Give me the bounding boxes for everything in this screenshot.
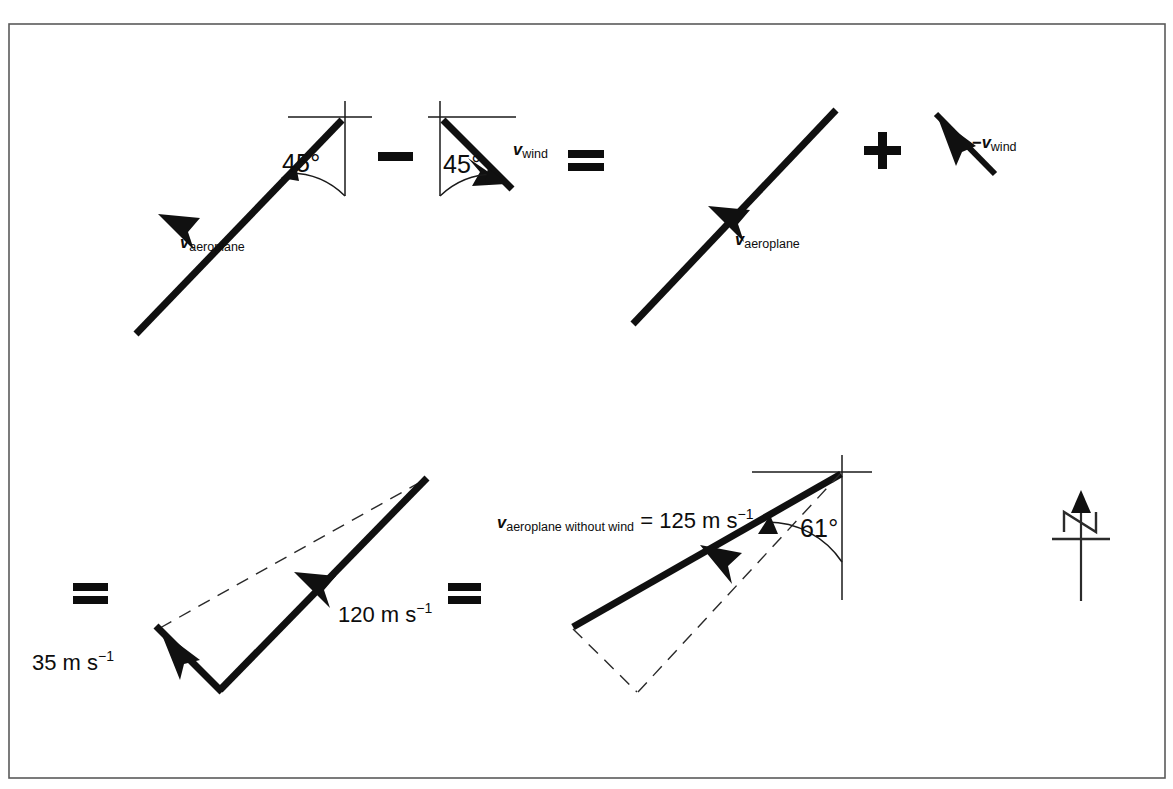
term-minus-v-wind: −vwind <box>936 114 1017 174</box>
label-120-value: 120 <box>338 602 375 627</box>
label-minus-sign: − <box>972 133 982 151</box>
equals-glyph-top-bar2 <box>568 163 604 171</box>
label-v-subscript-wind: wind <box>521 147 548 161</box>
term-v-aeroplane-with-wind: 45° vaeroplane <box>136 101 372 334</box>
label-resultant-value: 125 <box>659 508 696 533</box>
label-v-aeroplane-2: vaeroplane <box>735 230 800 251</box>
label-v-aeroplane-1: vaeroplane <box>180 233 245 254</box>
angle-label-45-left: 45° <box>282 149 320 177</box>
equals-glyph-bm-bar1 <box>448 583 481 591</box>
label-resultant-equals: = <box>640 508 653 533</box>
equals-glyph-bm-bar2 <box>448 596 481 604</box>
arrowhead-35 <box>160 630 200 680</box>
resultant-triangle: 61° vaeroplane without wind = 125 m s−1 <box>497 455 872 692</box>
label-120-exponent: −1 <box>416 600 432 616</box>
operator-minus: − <box>378 152 413 161</box>
minus-glyph <box>378 152 413 161</box>
arrowhead-minus-v-wind <box>938 118 976 166</box>
operator-equals-top: = <box>568 150 604 171</box>
label-35-value: 35 <box>32 650 56 675</box>
term-v-aeroplane-copy: vaeroplane <box>633 110 836 324</box>
label-v-subscript-minus-wind: wind <box>990 140 1017 154</box>
angle-label-61: 61° <box>800 514 838 542</box>
triangle-dashed-side-a <box>573 629 637 692</box>
equals-glyph-top-bar1 <box>568 150 604 158</box>
north-indicator: N <box>1052 490 1110 601</box>
angle-label-45-right: 45° <box>443 150 481 178</box>
label-resultant-125: vaeroplane without wind = 125 m s−1 <box>497 506 754 534</box>
label-minus-v-wind: −vwind <box>972 133 1017 154</box>
plus-glyph-vertical <box>878 132 887 169</box>
term-v-wind: 45° vwind <box>428 101 548 196</box>
label-35-exponent: −1 <box>98 648 114 664</box>
equals-glyph-bl-bar1 <box>73 583 108 591</box>
label-resultant-exponent: −1 <box>737 506 753 522</box>
vector-diagram-svg: 45° vaeroplane − 45° vwind <box>0 0 1173 789</box>
label-resultant-unit: m s <box>702 508 737 533</box>
equals-glyph-bl-bar2 <box>73 596 108 604</box>
label-vector-120: 120 m s−1 <box>338 600 432 627</box>
label-35-unit: m s <box>63 650 98 675</box>
arrowhead-120 <box>294 572 336 608</box>
figure-root: 45° vaeroplane − 45° vwind <box>0 0 1173 789</box>
operator-equals-bottom-left: = <box>73 583 108 604</box>
operator-plus: + <box>864 132 901 169</box>
label-v-wind: vwind <box>513 140 548 161</box>
label-vector-35: 35 m s−1 <box>32 648 114 675</box>
compass-arrowhead-icon <box>1071 490 1091 513</box>
label-v-subscript-resultant: aeroplane without wind <box>506 520 634 534</box>
arrowhead-125 <box>700 545 742 584</box>
operator-equals-bottom-middle: = <box>448 583 481 604</box>
label-v-subscript-2: aeroplane <box>744 237 800 251</box>
label-120-unit: m s <box>381 602 416 627</box>
label-v-subscript-1: aeroplane <box>189 240 245 254</box>
